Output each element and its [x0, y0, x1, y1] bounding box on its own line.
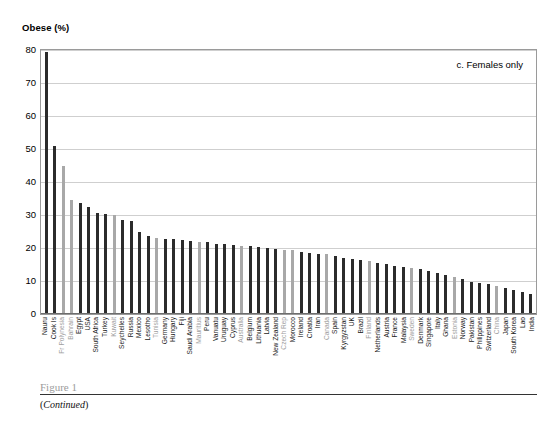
bar-slot [442, 49, 451, 313]
x-tick-label: Sweden [409, 317, 416, 341]
x-tick-label: Japan [503, 317, 510, 335]
x-tick-label: Lesotho [144, 317, 151, 340]
x-label-slot: Italy [433, 317, 442, 379]
x-label-slot: Mexico [135, 317, 144, 379]
x-tick-label: Canada [324, 317, 331, 340]
bar-slot [255, 49, 264, 313]
x-tick-label: Switzerland [486, 317, 493, 351]
figure-page: Obese (%) 80706050403020100 c. Females o… [0, 0, 554, 430]
x-label-slot: Saudi Arabia [186, 317, 195, 379]
y-tick-label: 10 [2, 275, 36, 286]
bar [470, 282, 473, 313]
x-tick-label: Peru [204, 317, 211, 331]
bar [487, 284, 490, 313]
x-tick-label: Vanuatu [213, 317, 220, 341]
bar-slot [518, 49, 527, 313]
x-label-slot: South Korea [510, 317, 519, 379]
y-tick-label: 60 [2, 110, 36, 121]
bar-slot [331, 49, 340, 313]
bar [215, 244, 218, 313]
bar [342, 258, 345, 313]
figure-number: Figure 1 [40, 381, 537, 394]
x-label-slot: China [493, 317, 502, 379]
x-label-slot: Fr Polynesia [58, 317, 67, 379]
bar [317, 254, 320, 313]
x-label-slot: Sweden [408, 317, 417, 379]
bar [419, 269, 422, 313]
bar [53, 146, 56, 313]
x-label-slot: Kyrgyzstan [340, 317, 349, 379]
bar [155, 238, 158, 313]
continued-word: Continued [43, 399, 85, 410]
bar [325, 254, 328, 313]
bar-slot [238, 49, 247, 313]
x-label-slot: Kuwait [109, 317, 118, 379]
x-tick-label: Norway [460, 317, 467, 339]
bar-slot [59, 49, 68, 313]
x-tick-label: Italy [434, 317, 441, 329]
x-tick-label: Cook Is [51, 317, 58, 339]
x-tick-label: Philippines [477, 317, 484, 349]
bar [172, 239, 175, 313]
x-label-slot: Germany [160, 317, 169, 379]
x-tick-label: Nauru [42, 317, 49, 335]
bar-slot [161, 49, 170, 313]
x-label-slot: Lesotho [143, 317, 152, 379]
bar-slot [51, 49, 60, 313]
x-tick-label: Lao [520, 317, 527, 328]
figure-caption-block: Figure 1 (Continued) [40, 381, 537, 410]
bar [206, 242, 209, 313]
bar [334, 256, 337, 313]
x-label-slot: Ireland [297, 317, 306, 379]
x-label-slot: Morocco [288, 317, 297, 379]
bar-slot [178, 49, 187, 313]
bar-slot [221, 49, 230, 313]
bar-slot [510, 49, 519, 313]
x-label-slot: Netherlands [374, 317, 383, 379]
bar [257, 247, 260, 313]
bar [393, 266, 396, 313]
bar-slot [195, 49, 204, 313]
x-tick-label: China [494, 317, 501, 334]
x-label-slot: Singapore [425, 317, 434, 379]
bar-slot [297, 49, 306, 313]
x-axis-category-labels: NauruCook IsFr PolynesiaBahrainEgyptUSAS… [41, 317, 536, 379]
x-label-slot: Malaysia [399, 317, 408, 379]
bar-slot [263, 49, 272, 313]
x-tick-label: Czech Rep [281, 317, 288, 350]
bar [189, 241, 192, 313]
x-tick-label: Malaysia [400, 317, 407, 343]
bar [308, 253, 311, 313]
bar [521, 292, 524, 313]
plot-frame [40, 49, 537, 315]
x-tick-label: Fiji [178, 317, 185, 325]
y-tick-label: 0 [2, 308, 36, 319]
x-tick-label: Latvia [264, 317, 271, 335]
x-label-slot: Egypt [75, 317, 84, 379]
bar [266, 248, 269, 313]
x-tick-label: Austria [383, 317, 390, 338]
bar-slot [153, 49, 162, 313]
x-tick-label: Kuwait [110, 317, 117, 337]
bar [300, 252, 303, 313]
x-label-slot: Peru [203, 317, 212, 379]
x-tick-label: Lithuania [255, 317, 262, 344]
bar [121, 220, 124, 313]
x-label-slot: Ghana [442, 317, 451, 379]
bar-slot [382, 49, 391, 313]
bar [223, 244, 226, 313]
bar [436, 273, 439, 313]
bar-slot [408, 49, 417, 313]
bar [410, 268, 413, 313]
x-label-slot: Denmark [416, 317, 425, 379]
bar [529, 294, 532, 313]
bar [147, 236, 150, 313]
x-tick-label: Finland [366, 317, 373, 339]
x-label-slot: Spain [331, 317, 340, 379]
x-tick-label: Croatia [306, 317, 313, 338]
bar [427, 271, 430, 313]
bar [181, 240, 184, 313]
bar-slot [527, 49, 536, 313]
x-tick-label: France [392, 317, 399, 338]
x-label-slot: Turkey [101, 317, 110, 379]
